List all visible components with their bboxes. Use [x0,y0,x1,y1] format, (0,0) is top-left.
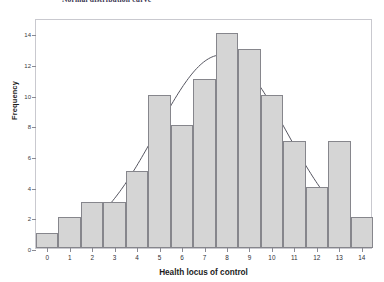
x-axis-tick [137,248,138,252]
histogram-bar [283,141,305,248]
histogram-bar [171,125,193,248]
x-axis-tick-label: 8 [225,254,229,261]
plot-area [36,20,371,248]
histogram-bar [148,95,170,248]
y-axis-tick-label: 12 [24,63,31,69]
x-axis-tick-label: 2 [90,254,94,261]
histogram-bar [216,33,238,248]
x-axis-tick [294,248,295,252]
x-axis-tick-label: 5 [158,254,162,261]
x-axis-tick [70,248,71,252]
histogram-bar [351,217,373,248]
y-axis-tick-label: 6 [28,155,31,161]
chart-title: Normal distribution curve [62,0,252,4]
histogram-bar [58,217,80,248]
x-axis-tick-label: 3 [113,254,117,261]
x-axis-tick [182,248,183,252]
x-axis-tick [317,248,318,252]
y-axis-tick [32,158,36,159]
histogram-bar [103,202,125,248]
x-axis-tick [47,248,48,252]
x-axis-tick [272,248,273,252]
y-axis-tick-label: 2 [28,216,31,222]
y-axis-tick [32,35,36,36]
histogram-bar [306,187,328,248]
y-axis-tick-label: 0 [28,247,31,253]
x-axis-tick [249,248,250,252]
x-axis-tick-label: 1 [68,254,72,261]
x-axis-tick-label: 6 [180,254,184,261]
y-axis-tick-label: 10 [24,94,31,100]
x-axis-tick-label: 11 [291,254,298,261]
y-axis-tick [32,219,36,220]
x-axis-tick [339,248,340,252]
histogram-bar [126,171,148,248]
y-axis-tick-label: 14 [24,32,31,38]
x-axis-tick [92,248,93,252]
x-axis-tick-label: 13 [336,254,343,261]
y-axis-tick [32,66,36,67]
x-axis-tick [205,248,206,252]
x-axis-tick-label: 0 [45,254,49,261]
x-axis-tick [115,248,116,252]
histogram-bar [36,233,58,248]
y-axis-tick [32,250,36,251]
y-axis-tick-label: 8 [28,124,31,130]
histogram-figure: Normal distribution curve Frequency 0246… [0,0,384,282]
y-axis-tick-label: 4 [28,186,31,192]
y-axis-tick [32,189,36,190]
y-axis-tick [32,127,36,128]
y-axis-label: Frequency [10,61,19,141]
x-axis-tick-label: 12 [313,254,320,261]
x-axis-tick-label: 4 [135,254,139,261]
x-axis-tick [160,248,161,252]
x-axis-tick-label: 7 [203,254,207,261]
histogram-bar [328,141,350,248]
x-axis-tick-label: 10 [268,254,275,261]
x-axis-label: Health locus of control [35,268,372,277]
histogram-bar [238,49,260,248]
histogram-bar [261,95,283,248]
x-axis-tick-label: 14 [358,254,365,261]
histogram-bar [193,79,215,248]
histogram-bar [81,202,103,248]
x-axis-tick [227,248,228,252]
x-axis-tick [362,248,363,252]
x-axis-tick-label: 9 [248,254,252,261]
y-axis-tick [32,97,36,98]
plot-frame: 0246810121401234567891011121314 [35,19,372,249]
